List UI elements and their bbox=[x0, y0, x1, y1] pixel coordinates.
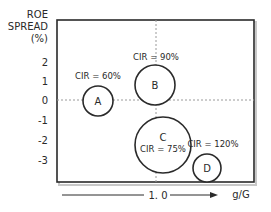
arrow-right-icon bbox=[210, 192, 218, 198]
y-axis-label-line-2: SPREAD bbox=[8, 21, 48, 32]
bubble-d-cir-label: CIR = 120% bbox=[187, 139, 238, 149]
y-tick: 0 bbox=[42, 95, 48, 106]
y-tick: -2 bbox=[38, 135, 48, 146]
y-axis-label-line-3: (%) bbox=[31, 33, 48, 44]
y-tick: 2 bbox=[42, 57, 48, 68]
bubble-c-cir-label: CIR = 75% bbox=[140, 144, 186, 154]
bubble-a-cir-label: CIR = 60% bbox=[75, 71, 121, 81]
bubble-b-cir-label: CIR = 90% bbox=[133, 52, 179, 62]
y-tick: -3 bbox=[38, 155, 48, 166]
y-axis-label-line-1: ROE bbox=[27, 9, 48, 20]
bubble-d-label: D bbox=[203, 163, 211, 174]
bubble-b-label: B bbox=[152, 80, 159, 91]
x-axis-marker: 1. 0 bbox=[148, 190, 167, 201]
x-axis-label: g/G bbox=[232, 189, 249, 200]
bubble-diagram: ROE SPREAD (%) 2 1 0 -1 -2 -3 CIR = 60% … bbox=[0, 0, 271, 212]
y-tick: 1 bbox=[42, 76, 48, 87]
bubble-a-label: A bbox=[95, 96, 102, 107]
y-tick: -1 bbox=[38, 115, 48, 126]
bubble-c-label: C bbox=[160, 132, 167, 143]
